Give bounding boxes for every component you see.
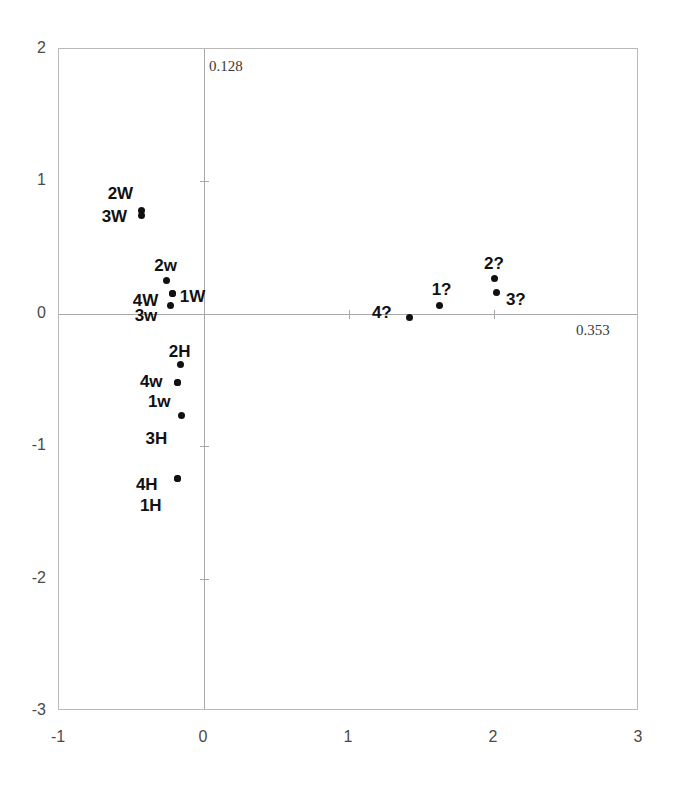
x-axis-tick-label: -1 bbox=[51, 728, 65, 746]
data-point-label: 3? bbox=[506, 291, 526, 308]
y-axis-tick-label: 0 bbox=[12, 304, 46, 322]
x-axis-tick-label: 1 bbox=[344, 728, 353, 746]
data-point bbox=[436, 302, 443, 309]
horizontal-axis-inertia-label: 0.353 bbox=[576, 322, 610, 339]
vertical-axis-inertia-label: 0.128 bbox=[209, 58, 243, 75]
data-point-label: 2W bbox=[108, 185, 134, 202]
data-point bbox=[177, 361, 184, 368]
data-point-label: 2w bbox=[154, 257, 177, 274]
data-point-label: 3w bbox=[135, 307, 158, 324]
data-point-label: 1W bbox=[180, 288, 206, 305]
x-axis-tick-mark bbox=[349, 310, 350, 319]
x-axis-tick-mark bbox=[494, 310, 495, 319]
y-axis-tick-label: 2 bbox=[12, 39, 46, 57]
y-axis-tick-label: -2 bbox=[12, 569, 46, 587]
y-axis-tick-label: -1 bbox=[12, 436, 46, 454]
data-point-label: 3H bbox=[146, 430, 168, 447]
scatter-plot-page: 2W3W2w4W1W3w2H4w1w3H4H1H4?1?2?3? -101232… bbox=[0, 0, 687, 788]
y-axis-tick-mark bbox=[200, 446, 209, 447]
data-point bbox=[174, 475, 181, 482]
data-point-label: 4w bbox=[140, 373, 163, 390]
data-point-label: 1w bbox=[148, 393, 171, 410]
data-point-label: 2H bbox=[169, 343, 191, 360]
x-axis-tick-label: 2 bbox=[489, 728, 498, 746]
data-point-label: 1? bbox=[432, 281, 452, 298]
data-point-label: 4H bbox=[136, 476, 158, 493]
x-axis-tick-label: 3 bbox=[634, 728, 643, 746]
data-point-label: 2? bbox=[484, 255, 504, 272]
data-point bbox=[167, 302, 174, 309]
data-point-label: 1H bbox=[140, 497, 162, 514]
data-point bbox=[178, 412, 185, 419]
vertical-zero-axis bbox=[204, 49, 205, 709]
x-axis-tick-label: 0 bbox=[199, 728, 208, 746]
data-point bbox=[406, 314, 413, 321]
data-point bbox=[163, 277, 170, 284]
plot-area: 2W3W2w4W1W3w2H4w1w3H4H1H4?1?2?3? bbox=[58, 48, 638, 710]
data-point-label: 4? bbox=[372, 304, 392, 321]
data-point bbox=[491, 275, 498, 282]
y-axis-tick-mark bbox=[200, 579, 209, 580]
y-axis-tick-label: -3 bbox=[12, 701, 46, 719]
data-point bbox=[174, 379, 181, 386]
data-point bbox=[169, 290, 176, 297]
y-axis-tick-label: 1 bbox=[12, 171, 46, 189]
data-point-label: 3W bbox=[102, 208, 128, 225]
data-point bbox=[493, 289, 500, 296]
data-point bbox=[138, 212, 145, 219]
y-axis-tick-mark bbox=[200, 181, 209, 182]
